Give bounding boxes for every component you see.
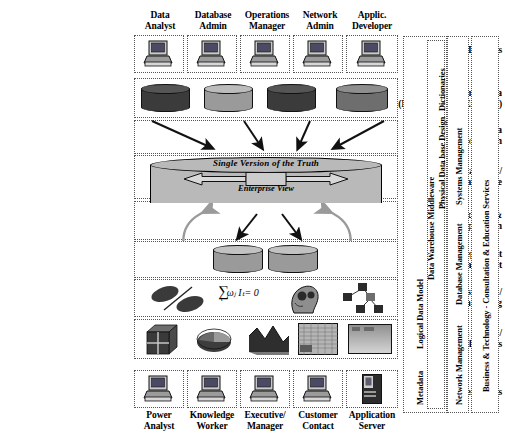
- service-subcolumn-middleware: [427, 40, 445, 409]
- role-label-line: Application: [344, 410, 400, 421]
- role-footer-power-analyst: Power Analyst: [134, 410, 184, 432]
- role-header-database-admin: Database Admin: [188, 10, 238, 32]
- service-label-business-technology: Business & Technology - Consultation & E…: [481, 180, 491, 392]
- data-warehouse-architecture-diagram: IT Users Source Data (Internal and/or Ex…: [0, 0, 505, 440]
- cluster-ellipses-icon: [148, 284, 208, 314]
- pie-chart-icon: [195, 325, 233, 353]
- enterprise-warehouse-cylinder: Single Version of the Truth Enterprise V…: [150, 157, 382, 197]
- role-label-line: Network: [295, 10, 345, 21]
- dependent-data-mart-cylinder: [268, 245, 318, 273]
- service-label-systems-management: Systems Management: [454, 128, 464, 205]
- workstation-icon: [301, 376, 335, 402]
- workstation-icon: [195, 41, 229, 67]
- service-column-business-technology: Business & Technology - Consultation & E…: [471, 36, 499, 413]
- role-footer-application-server: Application Server: [344, 410, 400, 432]
- role-label-line: Operations: [240, 10, 294, 21]
- role-label-line: Executive/: [239, 410, 291, 421]
- role-label-line: Analyst: [134, 421, 184, 432]
- service-label-metadata: Metadata: [415, 371, 425, 405]
- area-chart-icon: [247, 322, 291, 356]
- data-mining-formula: ∑tωⱼ Iₜ= 0: [218, 283, 263, 300]
- role-label-line: Database: [188, 10, 238, 21]
- dependent-data-mart-row: [134, 241, 398, 278]
- role-header-operations-manager: Operations Manager: [240, 10, 294, 32]
- workstation-icon: [142, 376, 176, 402]
- warehouse-subtitle: Enterprise View: [150, 183, 382, 193]
- workstation-icon: [355, 41, 389, 67]
- role-label-line: Applic.: [346, 10, 398, 21]
- role-header-data-analyst: Data Analyst: [136, 10, 184, 32]
- role-label-line: Power: [134, 410, 184, 421]
- role-label-line: Knowledge: [186, 410, 238, 421]
- role-label-line: Analyst: [136, 21, 184, 32]
- role-label-line: Admin: [188, 21, 238, 32]
- brain-head-icon: [288, 283, 322, 315]
- role-label-line: Server: [344, 421, 400, 432]
- role-label-line: Admin: [295, 21, 345, 32]
- dependent-data-mart-cylinder: [213, 245, 263, 273]
- role-label-line: Developer: [346, 21, 398, 32]
- olap-cube-icon: [145, 323, 179, 355]
- role-label-line: Customer: [292, 410, 344, 421]
- service-label-database-management: Database Management: [454, 224, 464, 305]
- workstation-icon: [248, 376, 282, 402]
- source-database-cylinder: [141, 84, 190, 112]
- formula-expression: ωⱼ Iₜ= 0: [227, 287, 259, 298]
- source-database-cylinder: [204, 84, 253, 112]
- role-label-line: Worker: [186, 421, 238, 432]
- role-label-line: Contact: [292, 421, 344, 432]
- source-database-cylinder: [267, 84, 316, 112]
- warehouse-title: Single Version of the Truth: [150, 158, 382, 168]
- summation-subscript: t: [221, 295, 223, 303]
- role-label-line: Data: [136, 10, 184, 21]
- service-label-network-management: Network Management: [454, 325, 464, 405]
- workstation-icon: [142, 41, 176, 67]
- workstation-icon: [248, 41, 282, 67]
- transformation-arrows: [134, 118, 398, 156]
- role-footer-executive-manager: Executive/ Manager: [239, 410, 291, 432]
- workstation-icon: [195, 376, 229, 402]
- workstation-icon: [301, 41, 335, 67]
- role-label-line: Manager: [240, 21, 294, 32]
- decision-tree-icon: [340, 281, 386, 315]
- service-label-logical-data-model: Logical Data Model: [415, 279, 425, 349]
- role-header-network-admin: Network Admin: [295, 10, 345, 32]
- application-server-icon: [362, 374, 382, 404]
- service-column-management-services: Network Management Database Management S…: [447, 36, 469, 413]
- spreadsheet-icon: [298, 323, 338, 355]
- role-label-line: Manager: [239, 421, 291, 432]
- role-footer-customer-contact: Customer Contact: [292, 410, 344, 432]
- report-screen-icon: [348, 324, 392, 354]
- source-database-cylinder: [336, 84, 388, 112]
- role-header-applic-developer: Applic. Developer: [346, 10, 398, 32]
- role-footer-knowledge-worker: Knowledge Worker: [186, 410, 238, 432]
